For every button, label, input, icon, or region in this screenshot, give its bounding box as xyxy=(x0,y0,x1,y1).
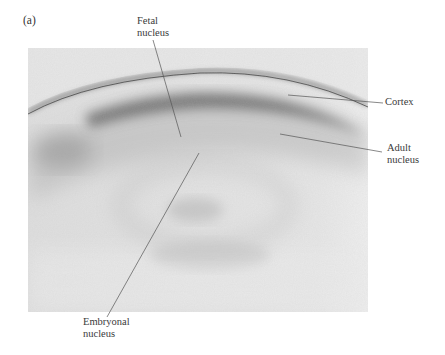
adult-nucleus-label: Adult nucleus xyxy=(387,142,419,166)
cortex-label: Cortex xyxy=(385,96,414,108)
photo-area xyxy=(28,48,368,312)
panel-label: (a) xyxy=(23,14,36,26)
fetal-nucleus-label: Fetal nucleus xyxy=(137,15,169,39)
embryonal-nucleus-label: Embryonal nucleus xyxy=(83,316,130,340)
lens-photograph xyxy=(0,0,445,355)
